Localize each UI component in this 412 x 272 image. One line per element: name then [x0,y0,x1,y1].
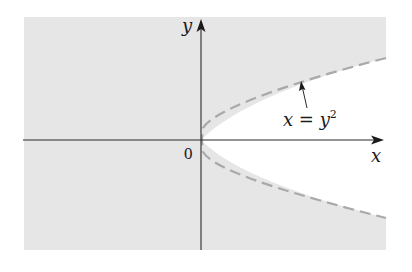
origin-label: 0 [184,144,193,163]
equation-label: x = y2 [283,108,337,130]
equation-exponent: 2 [330,108,337,121]
y-axis-label: y [181,15,193,36]
x-axis-label: x [371,145,381,166]
svg-text:x = y2: x = y2 [283,108,337,130]
shaded-region [24,17,386,250]
equation-pointer [299,81,307,108]
equation-text: x = y [283,109,331,130]
diagram-canvas: y x 0 x = y2 [0,0,412,272]
